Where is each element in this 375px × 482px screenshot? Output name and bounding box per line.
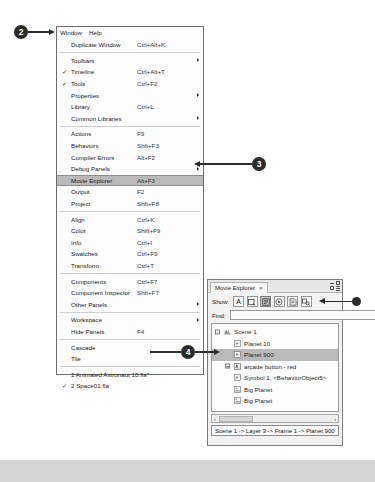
panel-menu-icon[interactable] [336, 286, 340, 291]
menu-item-actions[interactable]: ActionsF9 [57, 128, 203, 140]
menu-item-debug-panels[interactable]: Debug Panels [57, 163, 203, 175]
menu-item-compiler-errors[interactable]: Compiler ErrorsAlt+F2 [57, 151, 203, 163]
submenu-arrow-icon [197, 302, 199, 306]
movie-explorer-tree[interactable]: -Scene 1Planet 10Planet 900+arcade butto… [211, 323, 339, 412]
menu-item-label: Component Inspector [71, 289, 130, 296]
menu-item-output[interactable]: OutputF2 [57, 186, 203, 198]
frames-layers-filter-icon[interactable] [287, 296, 298, 307]
scroll-right-arrow-icon[interactable]: › [334, 416, 336, 422]
menu-item-shortcut: F2 [137, 188, 144, 195]
screenshot-root: Window Help Duplicate WindowCtrl+Alt+KTo… [0, 0, 375, 482]
checkmark-icon: ✓ [62, 383, 67, 389]
tree-item[interactable]: Planet 900 [212, 349, 338, 361]
graphic-icon [234, 386, 241, 393]
video-sounds-bitmaps-filter-icon[interactable] [274, 296, 285, 307]
menu-item-other-panels[interactable]: Other Panels [57, 298, 203, 310]
menu-item-label: Debug Panels [71, 165, 110, 172]
menu-item-label: Cascade [71, 344, 95, 351]
menu-item-swatches[interactable]: SwatchesCtrl+F9 [57, 248, 203, 260]
collapse-toggle-icon[interactable]: - [215, 329, 220, 334]
menu-item-properties[interactable]: Properties [57, 89, 203, 101]
tree-item-label: arcade button - red [244, 363, 338, 370]
tree-item[interactable]: Big Planet [212, 395, 338, 407]
menu-item-transform[interactable]: TransformCtrl+T [57, 260, 203, 272]
menu-item-align[interactable]: AlignCtrl+K [57, 213, 203, 225]
callout-3-leader [200, 163, 252, 164]
buttons-movieclips-graphics-filter-icon[interactable] [247, 296, 258, 307]
minimize-icon[interactable] [330, 283, 334, 284]
menu-separator [60, 211, 200, 212]
action-script-filter-icon[interactable] [260, 296, 271, 307]
menu-item-label: Output [71, 188, 90, 195]
menu-item-label: Actions [71, 130, 91, 137]
graphic-icon [234, 397, 241, 404]
menu-item-label: Duplicate Window [71, 41, 121, 48]
menu-item-2-space01-fla[interactable]: ✓2 Space01.fla [57, 380, 203, 392]
menu-item-1-animated-astronaut-10-fla[interactable]: 1 Animated Astronaut 10.fla* [57, 368, 203, 380]
tree-item[interactable]: Big Planet [212, 384, 338, 396]
find-input[interactable] [230, 310, 375, 320]
collapse-icon[interactable] [330, 286, 334, 290]
menu-item-behaviors[interactable]: BehaviorsShft+F3 [57, 140, 203, 152]
menu-item-component-inspector[interactable]: Component InspectorShft+F7 [57, 287, 203, 299]
panel-tab-bar: Movie Explorer × [208, 280, 342, 293]
menu-item-shortcut: Shift+F9 [137, 227, 160, 234]
button-icon [234, 363, 241, 370]
menu-item-workspace[interactable]: Workspace [57, 314, 203, 326]
menu-item-shortcut: Ctrl+F7 [137, 278, 157, 285]
window-menu-items: Duplicate WindowCtrl+Alt+KToolbars✓Timel… [57, 38, 203, 392]
menu-item-movie-explorer[interactable]: Movie ExplorerAlt+F3 [57, 175, 203, 187]
maximize-icon[interactable] [336, 281, 340, 285]
menu-item-timeline[interactable]: ✓TimelineCtrl+Alt+T [57, 66, 203, 78]
menu-item-label: Behaviors [71, 142, 99, 149]
submenu-arrow-icon [197, 93, 199, 97]
menu-item-label: Tools [71, 80, 85, 87]
tree-item[interactable]: -Scene 1 [212, 326, 338, 338]
close-icon[interactable]: × [259, 285, 263, 291]
callout-2-arrowhead [49, 29, 55, 35]
menu-item-common-libraries[interactable]: Common Libraries [57, 113, 203, 125]
menu-item-label: Info [71, 239, 81, 246]
callout-4-leader-left [150, 351, 181, 352]
horizontal-scrollbar[interactable]: ‹ › [211, 414, 339, 423]
filter-button-strip[interactable]: A [233, 296, 312, 307]
scroll-left-arrow-icon[interactable]: ‹ [214, 416, 216, 422]
text-filter-icon[interactable]: A [233, 296, 244, 307]
menu-item-toolbars[interactable]: Toolbars [57, 55, 203, 67]
show-label: Show: [212, 298, 229, 305]
tree-item[interactable]: Symbol 1, <BehaviorObject5> [212, 372, 338, 384]
menu-item-shortcut: Alt+F2 [137, 154, 155, 161]
callout-2-leader [28, 31, 50, 32]
menu-item-label: 2 Space01.fla [71, 382, 109, 389]
menu-item-duplicate-window[interactable]: Duplicate WindowCtrl+Alt+K [57, 39, 203, 51]
menu-item-color[interactable]: ColorShift+F9 [57, 225, 203, 237]
find-label: Find: [212, 312, 226, 319]
tree-item[interactable]: +arcade button - red [212, 361, 338, 373]
customize-filter-icon[interactable] [301, 296, 312, 307]
panel-window-controls[interactable] [330, 281, 340, 291]
tab-movie-explorer[interactable]: Movie Explorer × [210, 282, 268, 293]
menu-item-components[interactable]: ComponentsCtrl+F7 [57, 275, 203, 287]
menu-item-label: Movie Explorer [71, 177, 112, 184]
menu-item-label: Color [71, 227, 86, 234]
callout-4: 4 [181, 345, 195, 359]
menu-item-info[interactable]: InfoCtrl+I [57, 237, 203, 249]
menu-item-project[interactable]: ProjectShft+F8 [57, 198, 203, 210]
callout-4-leader-right [195, 351, 215, 352]
scrollbar-thumb[interactable] [219, 416, 253, 422]
menubar-item-window[interactable]: Window [60, 29, 82, 36]
status-bar: Scene 1 -> Layer 3 -> Frame 1 -> Planet … [211, 425, 339, 436]
menu-item-label: Align [71, 216, 85, 223]
menu-separator [60, 366, 200, 367]
menu-item-tools[interactable]: ✓ToolsCtrl+F2 [57, 78, 203, 90]
menu-item-hide-panels[interactable]: Hide PanelsF4 [57, 326, 203, 338]
menu-item-shortcut: F9 [137, 130, 144, 137]
tree-item[interactable]: Planet 10 [212, 338, 338, 350]
expand-toggle-icon[interactable]: + [225, 364, 230, 369]
menu-item-shortcut: Ctrl+I [137, 239, 152, 246]
menu-item-label: Library [71, 103, 90, 110]
submenu-arrow-icon [197, 167, 199, 171]
window-menu-dropdown[interactable]: Window Help Duplicate WindowCtrl+Alt+KTo… [56, 26, 204, 375]
menubar-item-help[interactable]: Help [89, 29, 102, 36]
menu-item-library[interactable]: LibraryCtrl+L [57, 101, 203, 113]
